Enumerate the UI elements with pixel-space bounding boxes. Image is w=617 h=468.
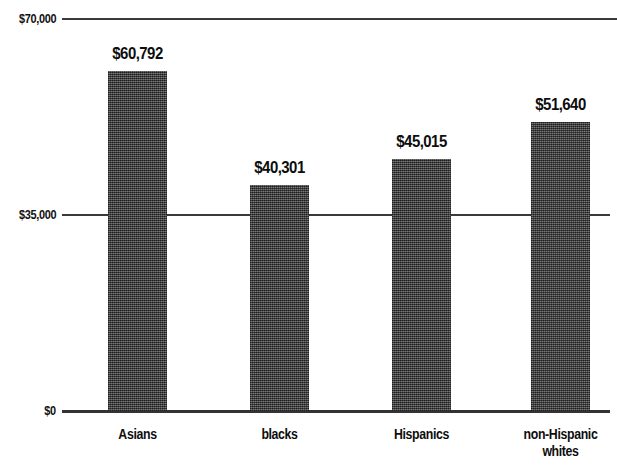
- category-label-blacks: blacks: [225, 426, 333, 443]
- bar-value-label-blacks: $40,301: [231, 158, 329, 178]
- bar-value-label-hispanics: $45,015: [373, 132, 471, 152]
- category-label-line1: Asians: [118, 426, 156, 442]
- gridline-70000: [62, 18, 617, 20]
- bar-hispanics: [392, 159, 451, 411]
- bar-value-label-asians: $60,792: [89, 44, 187, 64]
- category-label-line1: Hispanics: [394, 426, 449, 442]
- y-tick-label-70000: $70,000: [19, 11, 56, 26]
- y-tick-0: $0: [0, 403, 56, 419]
- bar-chart: $70,000 $35,000 $0 $60,792 Asians $40,30…: [0, 0, 617, 468]
- category-label-line1: blacks: [261, 426, 297, 442]
- category-label-asians: Asians: [83, 426, 191, 443]
- y-tick-35000: $35,000: [0, 207, 56, 223]
- plot-area: $70,000 $35,000 $0 $60,792 Asians $40,30…: [0, 0, 617, 468]
- y-tick-label-0: $0: [45, 403, 56, 418]
- category-label-non-hispanic-whites: non-Hispanic whites: [506, 426, 614, 460]
- bar-non-hispanic-whites: [531, 122, 590, 411]
- category-label-line2: whites: [506, 443, 614, 460]
- y-tick-70000: $70,000: [0, 11, 56, 27]
- bar-asians: [108, 71, 167, 411]
- category-label-hispanics: Hispanics: [367, 426, 475, 443]
- category-label-line1: non-Hispanic: [524, 426, 598, 442]
- bar-value-label-non-hispanic-whites: $51,640: [512, 95, 610, 115]
- y-tick-label-35000: $35,000: [19, 207, 56, 222]
- bar-blacks: [250, 185, 309, 411]
